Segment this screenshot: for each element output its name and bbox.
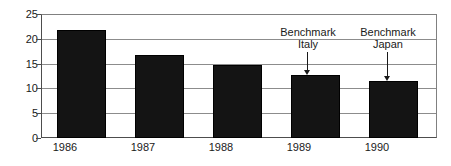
bar-1989 <box>291 75 340 138</box>
annotation-italy-arrow-icon <box>303 52 312 75</box>
annotation-japan-line1: Benchmark <box>330 26 446 38</box>
bar-1987 <box>135 55 184 138</box>
y-tick-label-15: 15 <box>8 59 38 70</box>
annotation-benchmark-japan: Benchmark Japan <box>330 26 446 50</box>
x-tick-label-1988: 1988 <box>188 142 254 153</box>
x-tick-label-1990: 1990 <box>344 142 410 153</box>
y-tick-label-25: 25 <box>8 9 38 20</box>
x-tick-label-1987: 1987 <box>110 142 176 153</box>
y-tick-label-20: 20 <box>8 34 38 45</box>
annotation-japan-arrow-icon <box>383 52 392 81</box>
bar-1990 <box>369 81 418 138</box>
x-tick-label-1986: 1986 <box>32 142 98 153</box>
bar-1986 <box>57 30 106 138</box>
y-tick-mark-0 <box>36 138 41 139</box>
x-tick-label-1989: 1989 <box>266 142 332 153</box>
y-tick-label-10: 10 <box>8 83 38 94</box>
bar-1988 <box>213 65 262 138</box>
annotation-japan-line2: Japan <box>330 38 446 50</box>
y-tick-label-5: 5 <box>8 108 38 119</box>
bar-chart: 25 20 15 10 5 0 1986 1987 1988 1989 1990… <box>0 0 451 166</box>
